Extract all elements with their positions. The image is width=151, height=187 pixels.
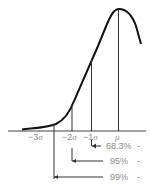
label-minus3-sigma: −3σ <box>28 132 43 142</box>
tick-68: - <box>137 141 140 151</box>
label-95-percent: 95% <box>110 156 128 166</box>
label-minus2-sigma: −2σ <box>62 132 77 142</box>
label-99-percent: 99% <box>110 172 128 182</box>
tick-99: - <box>137 172 140 182</box>
tick-95: - <box>137 156 140 166</box>
arrow-95-head-icon <box>72 159 76 163</box>
label-minus1-sigma: −1σ <box>83 132 98 142</box>
arrow-68-head-icon <box>92 144 96 149</box>
bell-curve <box>22 9 141 130</box>
arrow-99-head-icon <box>54 175 58 179</box>
normal-distribution-diagram: −3σ −2σ −1σ μ 68.3% - 95% - 99% - <box>0 0 151 187</box>
label-68-percent: 68.3% <box>106 141 132 151</box>
